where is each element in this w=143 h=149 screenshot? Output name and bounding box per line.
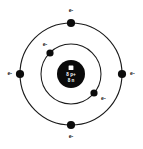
electron-dot	[90, 89, 97, 96]
nucleus-neutron-label: 8 n	[68, 78, 75, 83]
inner-electron-2: e-	[90, 89, 105, 101]
inner-electron-1: e-	[43, 41, 54, 56]
nucleus-proton-label: 8 p+	[66, 72, 76, 77]
atom-diagram-canvas: 8 p+ 8 n e- e- e- e-	[0, 0, 143, 149]
electron-dot	[67, 121, 75, 129]
electron-label: e-	[130, 70, 135, 76]
electron-dot	[67, 19, 75, 27]
outer-electron-bottom: e-	[67, 121, 75, 139]
bohr-model-svg: 8 p+ 8 n e- e- e- e-	[0, 0, 143, 149]
outer-electron-right: e-	[118, 70, 135, 78]
nucleus: 8 p+ 8 n	[57, 60, 85, 88]
electron-label: e-	[69, 133, 74, 139]
electron-dot	[16, 70, 24, 78]
electron-label: e-	[7, 70, 12, 76]
electron-dot	[118, 70, 126, 78]
electron-dot	[46, 49, 53, 56]
outer-electron-left: e-	[7, 70, 24, 78]
outer-electron-top: e-	[67, 7, 75, 27]
electron-label: e-	[69, 7, 74, 13]
electron-label: e-	[101, 95, 106, 101]
electron-label: e-	[43, 41, 48, 47]
nucleus-square-marker	[69, 66, 74, 70]
